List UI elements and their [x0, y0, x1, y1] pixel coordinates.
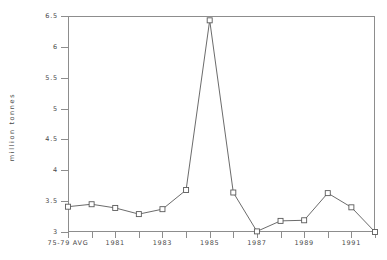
chart-figure: million tonnes 6.565.554.543.53 75-79 AV…: [0, 0, 387, 260]
x-axis-tick: [328, 232, 329, 238]
y-axis-tick: [61, 139, 68, 140]
x-axis-tick-label: 75-79 AVG: [48, 239, 89, 247]
y-axis-tick: [61, 47, 68, 48]
y-axis-tick-label: 6.5: [28, 12, 58, 20]
x-axis-tick: [68, 232, 69, 238]
x-axis-tick: [162, 232, 163, 238]
y-axis-tick-label: 3.5: [28, 197, 58, 205]
y-axis-tick: [61, 16, 68, 17]
y-axis-tick: [61, 78, 68, 79]
y-axis-title: million tonnes: [8, 93, 16, 161]
x-axis-tick: [210, 232, 211, 238]
y-axis-tick: [61, 201, 68, 202]
x-axis-tick: [233, 232, 234, 238]
x-axis-tick: [375, 232, 376, 238]
x-axis-tick-label: 1981: [106, 239, 125, 247]
y-axis-tick: [61, 232, 68, 233]
x-axis-tick: [139, 232, 140, 238]
y-axis-tick-label: 5.5: [28, 74, 58, 82]
y-axis-tick-label: 3: [28, 228, 58, 236]
x-axis-tick-label: 1987: [247, 239, 266, 247]
x-axis-tick: [92, 232, 93, 238]
plot-area: [68, 16, 375, 232]
x-axis-tick: [115, 232, 116, 238]
y-axis-tick-label: 6: [28, 43, 58, 51]
x-axis-tick: [304, 232, 305, 238]
y-axis-tick: [61, 170, 68, 171]
x-axis-tick-label: 1991: [342, 239, 361, 247]
x-axis-tick-label: 1989: [294, 239, 313, 247]
x-axis-tick: [281, 232, 282, 238]
y-axis-tick: [61, 109, 68, 110]
x-axis-tick: [186, 232, 187, 238]
y-axis-tick-label: 5: [28, 105, 58, 113]
x-axis-tick-label: 1983: [153, 239, 172, 247]
x-axis-tick-label: 1985: [200, 239, 219, 247]
y-axis-tick-label: 4: [28, 166, 58, 174]
y-axis-tick-label: 4.5: [28, 135, 58, 143]
x-axis-tick: [257, 232, 258, 238]
x-axis-tick: [351, 232, 352, 238]
